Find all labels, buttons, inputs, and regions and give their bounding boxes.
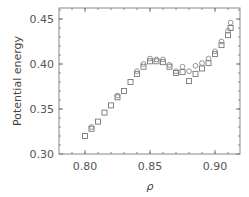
circle-marker bbox=[89, 125, 94, 130]
y-tick-label: 0.40 bbox=[30, 58, 55, 71]
square-marker bbox=[122, 89, 127, 94]
circle-marker bbox=[167, 63, 172, 68]
square-marker bbox=[200, 66, 205, 71]
square-marker bbox=[96, 119, 101, 124]
square-marker bbox=[128, 80, 133, 85]
x-axis-label: ρ bbox=[147, 180, 154, 193]
square-marker bbox=[187, 79, 192, 84]
y-tick-label: 0.35 bbox=[30, 103, 55, 116]
x-axis: 0.800.850.90 bbox=[72, 8, 228, 173]
circle-marker bbox=[228, 20, 233, 25]
circle-marker bbox=[200, 61, 205, 66]
circle-marker bbox=[219, 39, 224, 44]
circle-marker bbox=[193, 63, 198, 68]
y-tick-label: 0.45 bbox=[30, 13, 55, 26]
circle-marker bbox=[187, 69, 192, 74]
x-tick-label: 0.90 bbox=[203, 160, 228, 173]
data-points bbox=[83, 20, 234, 138]
square-marker bbox=[180, 70, 185, 75]
x-tick-label: 0.85 bbox=[138, 160, 163, 173]
square-marker bbox=[193, 71, 198, 76]
scatter-chart: 0.800.850.90 0.300.350.400.45 ρ Potentia… bbox=[0, 0, 249, 197]
square-marker bbox=[109, 103, 114, 108]
circle-marker bbox=[115, 93, 120, 98]
plot-frame bbox=[59, 8, 240, 154]
circle-marker bbox=[174, 69, 179, 74]
square-marker bbox=[83, 134, 88, 139]
square-marker bbox=[102, 110, 107, 115]
y-tick-label: 0.30 bbox=[30, 148, 55, 161]
y-axis-label: Potential energy bbox=[11, 36, 24, 127]
x-tick-label: 0.80 bbox=[73, 160, 98, 173]
circle-marker bbox=[180, 64, 185, 69]
circle-marker bbox=[154, 57, 159, 62]
y-axis: 0.300.350.400.45 bbox=[30, 10, 241, 161]
